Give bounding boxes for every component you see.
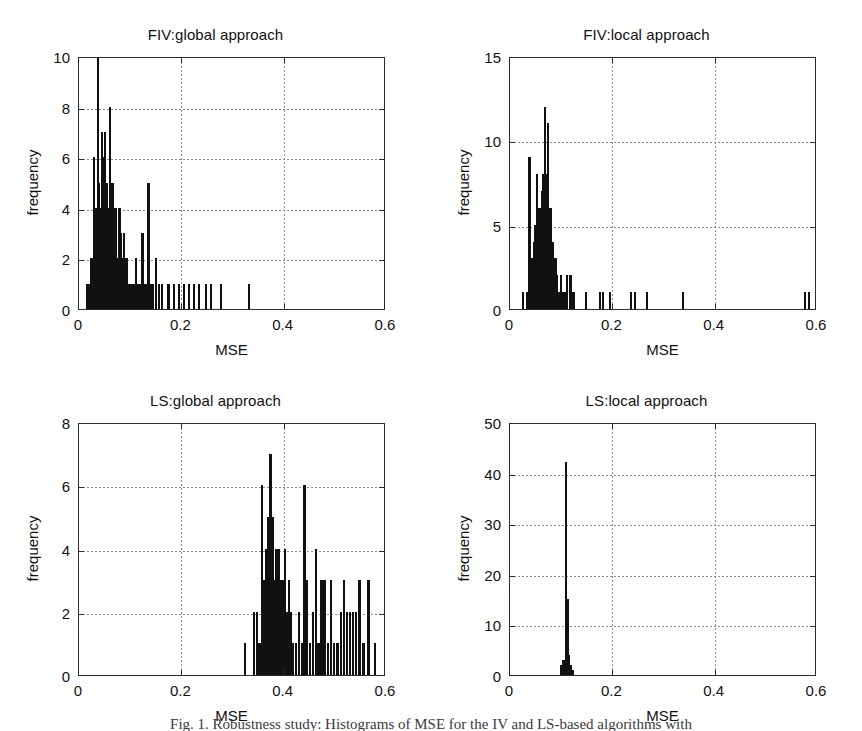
- histogram-bar: [161, 284, 163, 309]
- x-axis-tick: [284, 304, 285, 309]
- histogram-bar: [323, 580, 325, 675]
- y-axis-tick-right: [810, 142, 815, 143]
- y-axis-tick-right: [810, 576, 815, 577]
- x-tick-label: 0.4: [703, 316, 724, 333]
- histogram-bar: [566, 275, 568, 309]
- histogram-bar: [298, 612, 300, 675]
- histogram-bar: [210, 284, 212, 309]
- y-axis-tick-right: [379, 551, 384, 552]
- histogram-bar: [808, 292, 810, 309]
- histogram-bars: [510, 58, 815, 309]
- x-tick-label: 0.2: [601, 682, 622, 699]
- y-tick-label: 6: [0, 478, 70, 495]
- y-axis-tick: [510, 475, 515, 476]
- histogram-bars: [79, 58, 384, 309]
- plot-area: [78, 423, 385, 676]
- x-axis-tick-top: [181, 424, 182, 429]
- plot-area: [509, 423, 816, 676]
- x-axis-label: MSE: [78, 341, 385, 358]
- histogram-bar: [346, 612, 348, 675]
- x-tick-label: 0: [505, 682, 513, 699]
- y-axis-tick-right: [379, 159, 384, 160]
- histogram-bar: [362, 643, 364, 675]
- histogram-bar: [374, 643, 376, 675]
- histogram-bar: [646, 292, 648, 309]
- panel-title: LS:global approach: [0, 392, 431, 409]
- x-axis-tick: [612, 304, 613, 309]
- y-tick-label: 6: [0, 150, 70, 167]
- histogram-bar: [569, 275, 571, 309]
- y-axis-tick-right: [379, 487, 384, 488]
- y-tick-label: 8: [0, 415, 70, 432]
- histogram-bar: [167, 284, 169, 309]
- x-axis-label: MSE: [509, 341, 816, 358]
- x-axis-tick-top: [715, 424, 716, 429]
- histogram-bar: [352, 612, 354, 675]
- y-axis-tick-right: [379, 109, 384, 110]
- y-tick-label: 5: [431, 217, 501, 234]
- histogram-bar: [572, 292, 574, 309]
- y-axis-tick: [510, 525, 515, 526]
- histogram-bar: [173, 284, 175, 309]
- y-axis-tick-right: [379, 614, 384, 615]
- histogram-bar: [253, 612, 255, 675]
- histogram-bar: [198, 284, 200, 309]
- histogram-bar: [358, 580, 360, 675]
- y-axis-tick-right: [810, 475, 815, 476]
- y-tick-label: 0: [0, 668, 70, 685]
- plot-area: [78, 57, 385, 310]
- histogram-bar: [330, 580, 332, 675]
- x-axis-tick-top: [715, 58, 716, 63]
- histogram-bar: [193, 284, 195, 309]
- y-axis-tick: [79, 260, 84, 261]
- y-tick-label: 0: [0, 302, 70, 319]
- x-axis-tick-top: [284, 424, 285, 429]
- y-tick-label: 15: [431, 49, 501, 66]
- x-axis-tick-top: [284, 58, 285, 63]
- x-axis-tick: [181, 304, 182, 309]
- y-axis-tick: [510, 576, 515, 577]
- histogram-bar: [599, 292, 601, 309]
- y-tick-label: 40: [431, 465, 501, 482]
- y-axis-label: frequency: [455, 488, 472, 608]
- histogram-bars: [510, 424, 815, 675]
- histogram-bar: [220, 284, 222, 309]
- y-axis-tick: [510, 227, 515, 228]
- x-tick-label: 0.4: [272, 316, 293, 333]
- y-axis-tick: [79, 159, 84, 160]
- x-tick-label: 0.2: [601, 316, 622, 333]
- x-tick-label: 0.4: [703, 682, 724, 699]
- histogram-bars: [79, 424, 384, 675]
- histogram-bar: [188, 284, 190, 309]
- y-tick-label: 4: [0, 200, 70, 217]
- y-tick-label: 2: [0, 604, 70, 621]
- y-axis-tick: [79, 109, 84, 110]
- y-axis-tick: [79, 487, 84, 488]
- y-tick-label: 0: [431, 668, 501, 685]
- y-tick-label: 10: [431, 617, 501, 634]
- y-axis-tick-right: [810, 626, 815, 627]
- histogram-bar: [349, 612, 351, 675]
- x-tick-label: 0.4: [272, 682, 293, 699]
- histogram-bar: [343, 580, 345, 675]
- histogram-bar: [178, 284, 180, 309]
- y-tick-label: 4: [0, 541, 70, 558]
- histogram-bar: [248, 284, 250, 309]
- y-axis-label: frequency: [24, 122, 41, 242]
- histogram-bar: [355, 612, 357, 675]
- x-tick-label: 0.2: [170, 316, 191, 333]
- histogram-bar: [244, 643, 246, 675]
- x-axis-tick: [284, 670, 285, 675]
- histogram-bar: [327, 643, 329, 675]
- y-tick-label: 50: [431, 415, 501, 432]
- x-tick-label: 0.6: [806, 316, 827, 333]
- y-axis-tick: [510, 626, 515, 627]
- histogram-bar: [367, 580, 369, 675]
- plot-area: [509, 57, 816, 310]
- histogram-bar: [571, 670, 573, 675]
- histogram-bar: [602, 292, 604, 309]
- x-tick-label: 0.6: [806, 682, 827, 699]
- panel-fiv-global: FIV:global approach frequency MSE 00.20.…: [0, 0, 431, 365]
- histogram-bar: [333, 643, 335, 675]
- histogram-bar: [336, 643, 338, 675]
